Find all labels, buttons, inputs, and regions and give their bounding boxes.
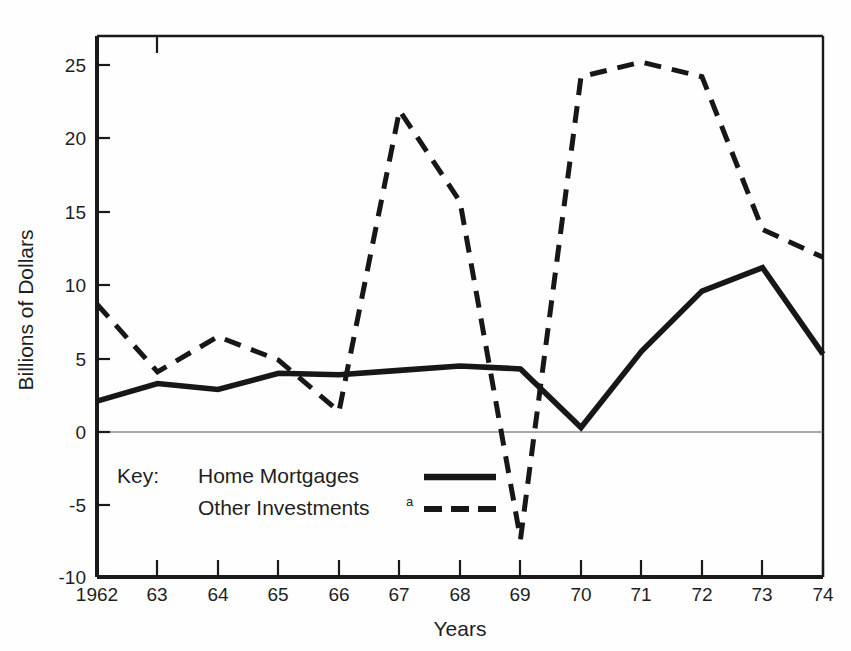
y-tick-label-25: 25 bbox=[65, 55, 86, 76]
x-tick-label-64: 64 bbox=[207, 584, 229, 605]
y-tick-label-20: 20 bbox=[65, 128, 86, 149]
y-tick-label-5: 5 bbox=[75, 349, 86, 370]
x-axis-tick-labels: 1962 63 64 65 66 67 68 69 70 71 72 73 74 bbox=[76, 584, 834, 605]
y-axis-tick-labels: 25 20 15 10 5 0 -5 -10 bbox=[59, 55, 86, 588]
line-chart: 25 20 15 10 5 0 -5 -10 bbox=[0, 0, 851, 651]
chart-legend: Key: Home Mortgages Other Investments a bbox=[117, 464, 496, 519]
x-tick-label-68: 68 bbox=[449, 584, 470, 605]
x-tick-label-65: 65 bbox=[267, 584, 288, 605]
chart-page: 25 20 15 10 5 0 -5 -10 bbox=[0, 0, 851, 651]
x-tick-label-63: 63 bbox=[146, 584, 167, 605]
x-tick-label-74: 74 bbox=[812, 584, 834, 605]
legend-key-label: Key: bbox=[117, 464, 159, 487]
x-tick-label-66: 66 bbox=[328, 584, 349, 605]
x-tick-label-71: 71 bbox=[630, 584, 651, 605]
legend-label-home-mortgages: Home Mortgages bbox=[198, 464, 359, 487]
x-tick-label-67: 67 bbox=[388, 584, 409, 605]
y-axis-title: Billions of Dollars bbox=[14, 229, 37, 390]
legend-label-other-investments: Other Investments bbox=[198, 496, 370, 519]
series-home-mortgages-line bbox=[97, 268, 823, 428]
x-tick-label-1962: 1962 bbox=[76, 584, 118, 605]
legend-footnote-marker: a bbox=[406, 494, 414, 509]
y-tick-label-neg5: -5 bbox=[69, 495, 86, 516]
x-tick-label-73: 73 bbox=[751, 584, 772, 605]
x-axis-title: Years bbox=[434, 617, 487, 640]
x-tick-label-70: 70 bbox=[570, 584, 591, 605]
x-tick-label-69: 69 bbox=[509, 584, 530, 605]
x-tick-label-72: 72 bbox=[691, 584, 712, 605]
y-tick-label-15: 15 bbox=[65, 202, 86, 223]
y-tick-label-10: 10 bbox=[65, 275, 86, 296]
y-tick-label-0: 0 bbox=[75, 422, 86, 443]
